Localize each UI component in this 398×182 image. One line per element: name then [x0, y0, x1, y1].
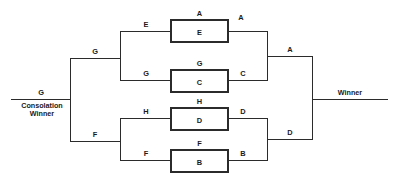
seed-box-b-above: F	[197, 139, 202, 148]
seed-box-c-inside: C	[197, 78, 203, 87]
upper-branch-label: G	[92, 47, 98, 56]
bracket-svg-canvas: G Consolation Winner G E G F H F E A C	[0, 0, 398, 182]
box-d-input-label: H	[143, 107, 148, 116]
seed-box-e-inside: E	[197, 28, 202, 37]
box-d-output-label: D	[240, 107, 246, 116]
entry-label: G	[38, 88, 44, 97]
seed-box-c-above: G	[197, 59, 203, 68]
upper-semifinal-output-label: A	[287, 45, 293, 54]
winner-label: Winner	[338, 88, 362, 97]
seed-box-b-inside: B	[197, 158, 202, 167]
lower-branch-label: F	[93, 130, 98, 139]
box-b-input-label: F	[144, 149, 149, 158]
box-c-input-label: G	[143, 69, 149, 78]
lower-semifinal-output-label: D	[287, 128, 293, 137]
box-b-output-label: B	[240, 149, 245, 158]
entry-name-line2: Winner	[30, 109, 54, 118]
tournament-bracket-diagram: G Consolation Winner G E G F H F E A C	[0, 0, 398, 182]
box-e-input-label: E	[144, 20, 149, 29]
box-e-output-label: A	[238, 13, 244, 22]
seed-box-d-inside: D	[197, 116, 203, 125]
box-c-output-label: C	[240, 69, 246, 78]
seed-box-e-above: A	[197, 9, 203, 18]
seed-box-d-above: H	[197, 97, 202, 106]
